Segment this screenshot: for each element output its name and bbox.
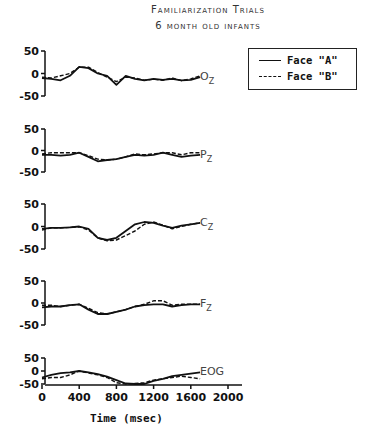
y-tick-label: -50	[19, 378, 39, 391]
face-a-trace	[42, 222, 200, 240]
y-tick-label: 0	[31, 365, 39, 378]
legend-item-face-b: Face "B"	[259, 70, 338, 82]
x-tick-label: 0	[38, 391, 46, 404]
channel-label-fz: FZ	[200, 297, 212, 313]
dashed-line-icon	[259, 76, 281, 77]
face-a-trace	[42, 153, 200, 162]
legend-label: Face "B"	[287, 70, 338, 82]
x-axis-label: Time (msec)	[90, 412, 163, 425]
y-tick-label: 50	[24, 123, 40, 136]
y-tick-label: 50	[24, 198, 40, 211]
y-tick-label: -50	[19, 90, 39, 103]
y-tick-label: -50	[19, 319, 39, 332]
y-tick-label: 0	[31, 221, 39, 234]
face-a-trace	[42, 304, 200, 314]
x-tick-label: 800	[105, 391, 128, 404]
x-tick-label: 2000	[213, 391, 244, 404]
y-tick-label: -50	[19, 166, 39, 179]
channel-label-oz: OZ	[200, 70, 215, 86]
face-a-trace	[42, 67, 200, 85]
y-tick-label: 0	[31, 297, 39, 310]
legend: Face "A" Face "B"	[248, 48, 357, 90]
y-tick-label: 50	[24, 352, 40, 365]
y-tick-label: 0	[31, 145, 39, 158]
solid-line-icon	[259, 60, 281, 61]
x-tick-label: 1600	[175, 391, 206, 404]
face-b-trace	[42, 301, 200, 314]
y-tick-label: 50	[24, 275, 40, 288]
legend-label: Face "A"	[287, 54, 338, 66]
y-tick-label: 50	[24, 45, 40, 58]
channel-label-eog: EOG	[200, 365, 224, 378]
x-tick-label: 1200	[138, 391, 169, 404]
channel-label-cz: CZ	[200, 216, 214, 232]
y-tick-label: 0	[31, 68, 39, 81]
y-tick-label: -50	[19, 243, 39, 256]
channel-label-pz: PZ	[200, 148, 213, 164]
x-tick-label: 400	[68, 391, 91, 404]
face-b-trace	[42, 222, 200, 241]
legend-item-face-a: Face "A"	[259, 54, 338, 66]
